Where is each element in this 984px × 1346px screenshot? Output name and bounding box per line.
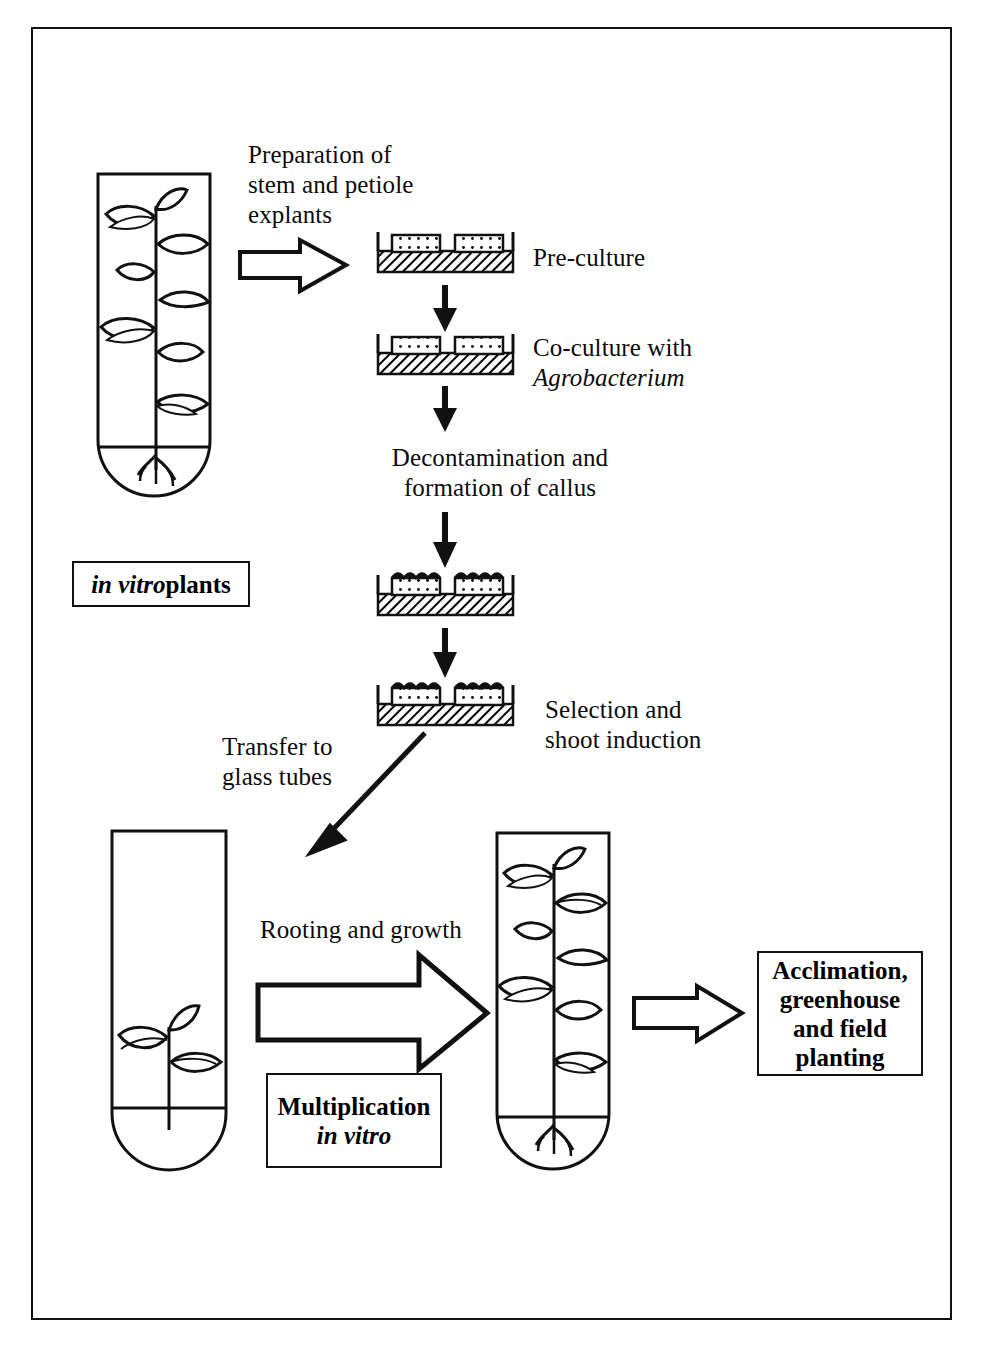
arrow-callus-to-selection	[433, 628, 457, 678]
acclimation-line1: Acclimation,	[772, 956, 907, 985]
arrow-pre-to-co	[433, 285, 457, 332]
petri-dish-pre-culture	[378, 232, 513, 272]
label-decontamination-callus: Decontamination and formation of callus	[330, 443, 670, 503]
label-co-culture: Co-culture withAgrobacterium	[533, 333, 763, 393]
multiplication-label: Multiplication	[278, 1092, 431, 1121]
label-agrobacterium: Agrobacterium	[533, 364, 685, 391]
acclimation-line4: planting	[796, 1043, 885, 1072]
acclimation-line3: and field	[793, 1014, 887, 1043]
box-acclimation-greenhouse: Acclimation, greenhouse and field planti…	[757, 951, 923, 1076]
label-pre-culture: Pre-culture	[533, 243, 753, 273]
petri-dish-callus-1	[378, 574, 513, 616]
in-vitro-italic: in vitro	[91, 570, 165, 599]
petri-dish-co-culture	[378, 334, 513, 374]
label-preparation-of-explants: Preparation of stem and petiole explants	[248, 140, 478, 230]
arrow-co-to-callus	[433, 386, 457, 432]
label-transfer-to-glass-tubes: Transfer to glass tubes	[222, 732, 432, 792]
block-arrow-rooting	[258, 955, 487, 1069]
label-rooting-and-growth: Rooting and growth	[260, 915, 560, 945]
block-arrow-explants	[240, 240, 346, 291]
box-multiplication-in-vitro: Multiplication in vitro	[266, 1073, 442, 1168]
box-in-vitro-plants: in vitro plants	[72, 561, 250, 607]
in-vitro-label: in vitro	[317, 1121, 391, 1150]
tube-bottom-middle-figure	[497, 833, 609, 1169]
arrow-decontamination-to-callus	[433, 512, 457, 568]
diagram-canvas: Preparation of stem and petiole explants…	[0, 0, 984, 1346]
acclimation-line2: greenhouse	[780, 985, 900, 1014]
block-arrow-acclimation	[634, 986, 742, 1041]
tube-bottom-left-figure	[112, 831, 226, 1170]
figures-layer	[0, 0, 984, 1346]
petri-dish-callus-2	[378, 684, 513, 726]
in-vitro-plants-roman: plants	[166, 570, 231, 599]
tube-top-left-figure	[98, 174, 210, 496]
label-co-culture-line1: Co-culture with	[533, 334, 692, 361]
label-selection-shoot-induction: Selection and shoot induction	[545, 695, 795, 755]
